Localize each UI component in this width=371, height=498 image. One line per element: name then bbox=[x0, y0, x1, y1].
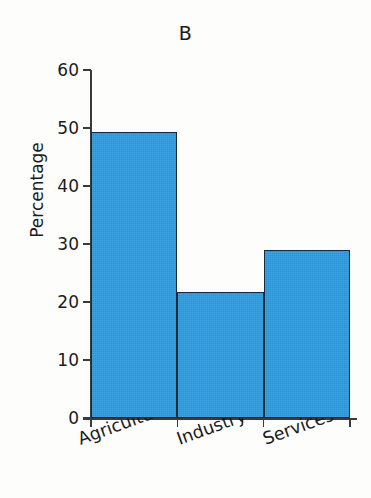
y-tick-label-30: 30 bbox=[57, 234, 79, 254]
y-tick-label-10: 10 bbox=[57, 350, 79, 370]
y-tick-20 bbox=[83, 301, 91, 303]
chart-figure: B Percentage 0102030405060 AgricultureIn… bbox=[0, 0, 371, 498]
y-tick-label-50: 50 bbox=[57, 118, 79, 138]
y-tick-label-20: 20 bbox=[57, 292, 79, 312]
y-tick-50 bbox=[83, 127, 91, 129]
plot-area bbox=[91, 70, 350, 418]
y-tick-30 bbox=[83, 243, 91, 245]
bar-services bbox=[264, 250, 350, 418]
y-tick-10 bbox=[83, 359, 91, 361]
y-tick-label-40: 40 bbox=[57, 176, 79, 196]
bar-agriculture bbox=[91, 132, 177, 418]
y-axis-label: Percentage bbox=[27, 120, 47, 260]
x-tick-1 bbox=[177, 418, 179, 427]
y-tick-label-0: 0 bbox=[68, 408, 79, 428]
chart-title: B bbox=[0, 22, 371, 44]
bar-industry bbox=[177, 292, 263, 418]
x-tick-3 bbox=[349, 418, 351, 427]
y-tick-40 bbox=[83, 185, 91, 187]
x-tick-2 bbox=[263, 418, 265, 427]
y-tick-60 bbox=[83, 69, 91, 71]
y-tick-label-60: 60 bbox=[57, 60, 79, 80]
